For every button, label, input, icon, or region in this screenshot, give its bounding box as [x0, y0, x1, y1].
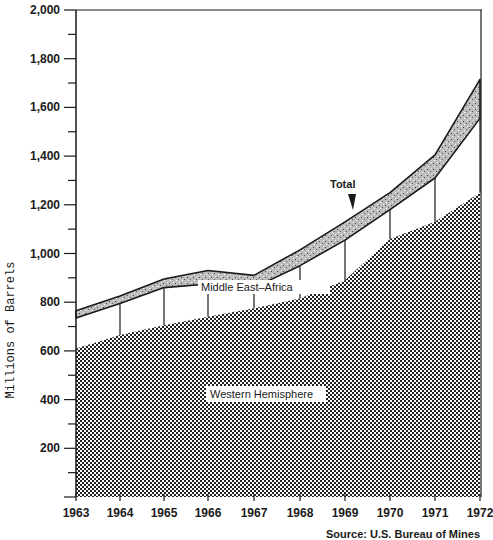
x-tick-label: 1969 [332, 506, 359, 520]
y-tick-label: 1,800 [30, 52, 60, 66]
y-tick-label: 200 [40, 441, 60, 455]
source-note: Source: U.S. Bureau of Mines [326, 528, 480, 540]
y-tick-label: 400 [40, 393, 60, 407]
x-tick-label: 1968 [287, 506, 314, 520]
x-tick-label: 1964 [107, 506, 134, 520]
x-tick-label: 1970 [377, 506, 404, 520]
y-tick-label: 1,400 [30, 149, 60, 163]
x-tick-label: 1967 [241, 506, 268, 520]
label-other: Other [314, 201, 346, 224]
x-tick-label: 1971 [422, 506, 449, 520]
y-tick-label: 2,000 [30, 3, 60, 17]
y-tick-label: 600 [40, 344, 60, 358]
y-tick-label: 1,200 [30, 198, 60, 212]
x-tick-label: 1972 [467, 506, 493, 520]
x-tick-label: 1966 [195, 506, 222, 520]
y-tick-label: 800 [40, 295, 60, 309]
label-total: Total [330, 178, 355, 190]
label-western-hemisphere: Western Hemisphere [210, 388, 313, 400]
x-tick-label: 1963 [63, 506, 90, 520]
y-tick-label: 1,000 [30, 247, 60, 261]
y-tick-label: 1,600 [30, 100, 60, 114]
y-axis-label: Millions of Barrels [4, 262, 18, 399]
x-tick-label: 1965 [151, 506, 178, 520]
label-middle-east-africa: Middle East–Africa [201, 281, 294, 293]
area-western-hemisphere [76, 193, 480, 497]
total-arrow-icon [348, 194, 356, 210]
